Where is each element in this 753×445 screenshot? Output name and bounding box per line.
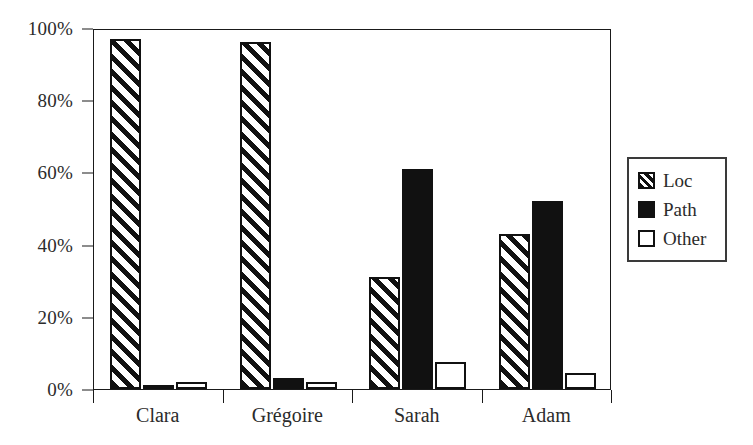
legend-item: Path	[638, 195, 725, 224]
legend-swatch-other-icon	[638, 230, 655, 247]
legend-item: Loc	[638, 166, 725, 195]
plot-area	[93, 29, 611, 390]
bar-sarah-loc	[369, 277, 400, 389]
y-axis-tick-mark	[82, 390, 93, 391]
legend-item: Other	[638, 224, 725, 253]
x-axis-tick-mark	[611, 390, 612, 403]
x-axis-tick-mark	[223, 390, 224, 403]
legend-swatch-path-icon	[638, 201, 655, 218]
x-axis-category-label: Adam	[522, 404, 571, 427]
legend-label-loc: Loc	[663, 170, 693, 192]
y-axis-tick-mark	[82, 173, 93, 174]
bar-adam-path	[532, 201, 563, 389]
bar-adam-other	[565, 373, 596, 389]
bar-sarah-other	[435, 362, 466, 389]
y-axis-tick-label: 20%	[38, 307, 73, 329]
x-axis-tick-mark	[482, 390, 483, 403]
chart-page: 0%20%40%60%80%100% ClaraGrégoireSarahAda…	[0, 0, 753, 445]
bar-grgoire-loc	[240, 42, 271, 389]
y-axis-tick-label: 80%	[38, 90, 73, 112]
bar-grgoire-path	[273, 378, 304, 389]
legend-swatch-loc-icon	[638, 172, 655, 189]
x-axis-tick-mark	[93, 390, 94, 403]
y-axis-tick-mark	[82, 29, 93, 30]
y-axis-tick-mark	[82, 245, 93, 246]
y-axis-tick-mark	[82, 317, 93, 318]
x-axis-tick-mark	[352, 390, 353, 403]
bar-clara-loc	[110, 39, 141, 389]
x-axis-category-label: Clara	[136, 404, 179, 427]
y-axis-tick-label: 0%	[47, 379, 73, 401]
legend-label-path: Path	[663, 199, 697, 221]
bar-grgoire-other	[306, 382, 337, 389]
chart-legend: Loc Path Other	[627, 157, 727, 262]
bar-sarah-path	[402, 169, 433, 389]
bar-adam-loc	[499, 234, 530, 389]
x-axis-category-label: Grégoire	[252, 404, 323, 427]
y-axis-tick-label: 60%	[38, 162, 73, 184]
y-axis: 0%20%40%60%80%100%	[0, 0, 93, 445]
bar-clara-other	[176, 382, 207, 389]
y-axis-tick-label: 40%	[38, 235, 73, 257]
y-axis-tick-mark	[82, 101, 93, 102]
x-axis-category-label: Sarah	[394, 404, 440, 427]
y-axis-tick-label: 100%	[28, 18, 73, 40]
legend-label-other: Other	[663, 228, 706, 250]
bar-clara-path	[143, 385, 174, 389]
